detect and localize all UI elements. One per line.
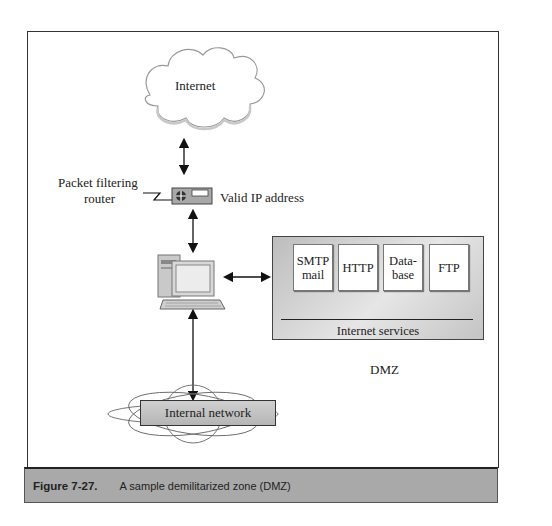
service-http: HTTP: [338, 244, 378, 291]
service-ftp: FTP: [429, 244, 469, 291]
internal-network-box: Internal network: [140, 400, 276, 426]
internet-label: Internet: [175, 78, 215, 94]
valid-ip-label: Valid IP address: [220, 190, 304, 206]
figure-number: Figure 7-27.: [33, 480, 98, 492]
router-label-line2: router: [84, 191, 115, 207]
internet-services-label: Internet services: [273, 324, 483, 339]
figure-caption-text: A sample demilitarized zone (DMZ): [120, 480, 291, 492]
router-pointer-line: [143, 193, 172, 200]
service-database: Data-base: [383, 244, 423, 291]
service-smtp-mail: SMTPmail: [293, 244, 333, 291]
router-label-line1: Packet filtering: [58, 175, 138, 191]
figure-caption: Figure 7-27. A sample demilitarized zone…: [24, 467, 498, 503]
computer-icon: [158, 255, 225, 309]
dmz-services-box: SMTPmail HTTP Data-base FTP Internet ser…: [272, 236, 484, 340]
router-icon: [172, 188, 212, 204]
dmz-label: DMZ: [370, 362, 399, 378]
services-divider: [281, 319, 473, 320]
